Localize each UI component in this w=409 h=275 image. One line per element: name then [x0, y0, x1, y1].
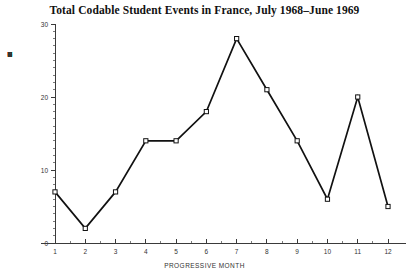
data-point-marker: [265, 88, 269, 92]
y-tick-label: 20: [41, 94, 49, 101]
data-point-marker: [325, 197, 329, 201]
data-point-marker: [204, 110, 208, 114]
data-point-marker: [53, 190, 57, 194]
x-tick-label: 3: [114, 248, 118, 255]
y-tick-label: 30: [41, 21, 49, 28]
data-series: [55, 39, 388, 229]
y-tick-label: 10: [41, 167, 49, 174]
data-point-marker: [356, 95, 360, 99]
x-tick-label: 5: [174, 248, 178, 255]
x-tick-label: 11: [354, 248, 361, 255]
x-tick-label: 12: [384, 248, 392, 255]
series-line: [55, 39, 388, 229]
data-point-marker: [174, 139, 178, 143]
data-markers: [53, 37, 390, 231]
line-chart-plot: 0102030 123456789101112: [0, 0, 409, 275]
x-tick-label: 8: [265, 248, 269, 255]
x-tick-label: 4: [144, 248, 148, 255]
x-axis-title: PROGRESSIVE MONTH: [0, 262, 409, 269]
x-tick-label: 1: [53, 248, 57, 255]
data-point-marker: [144, 139, 148, 143]
chart-figure: Total Codable Student Events in France, …: [0, 0, 409, 275]
x-tick-label: 6: [205, 248, 209, 255]
x-tick-label: 9: [295, 248, 299, 255]
x-tick-label: 7: [235, 248, 239, 255]
x-tick-label: 10: [324, 248, 332, 255]
data-point-marker: [386, 204, 390, 208]
data-point-marker: [83, 226, 87, 230]
x-axis: 123456789101112: [41, 239, 406, 256]
x-tick-label: 2: [83, 248, 87, 255]
data-point-marker: [235, 37, 239, 41]
data-point-marker: [295, 139, 299, 143]
y-axis: 0102030: [41, 21, 55, 247]
data-point-marker: [113, 190, 117, 194]
